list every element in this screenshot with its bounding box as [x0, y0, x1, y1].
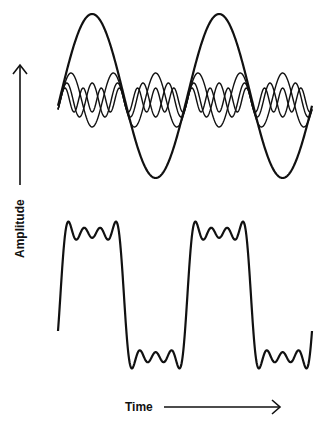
harmonic-waves	[58, 73, 312, 127]
x-axis: Time	[125, 400, 280, 414]
x-axis-label: Time	[125, 400, 153, 414]
y-axis: Amplitude	[13, 65, 27, 258]
components-panel	[58, 14, 312, 178]
fourier-diagram: Amplitude Time	[0, 0, 323, 424]
square-wave-sum	[58, 222, 312, 369]
y-axis-label: Amplitude	[13, 199, 27, 258]
sum-panel	[58, 222, 312, 369]
fundamental-sine-wave	[58, 14, 312, 178]
